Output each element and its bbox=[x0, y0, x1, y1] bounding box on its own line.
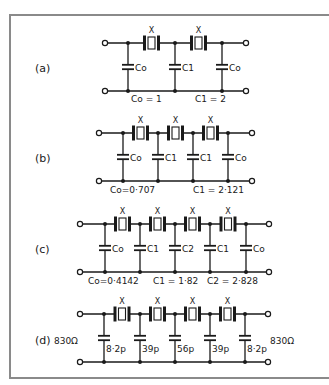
terminal-icon bbox=[77, 269, 82, 274]
crystal-icon bbox=[145, 36, 159, 51]
capacitor-label: C1 bbox=[147, 244, 159, 254]
component-value: C1 = 2·121 bbox=[193, 185, 244, 195]
crystal-label: X bbox=[155, 297, 161, 306]
capacitor-value: 8·2p bbox=[247, 344, 267, 354]
capacitor-icon bbox=[169, 224, 181, 272]
panel-label: (a) bbox=[35, 62, 50, 75]
crystal-icon bbox=[204, 126, 218, 141]
panel-label: (d) bbox=[35, 334, 51, 347]
crystal-label: X bbox=[196, 26, 202, 35]
crystal-label: X bbox=[155, 207, 161, 216]
terminal-icon bbox=[266, 221, 271, 226]
panel-label: (c) bbox=[35, 243, 50, 256]
capacitor-label: Co bbox=[253, 244, 265, 254]
component-value: Co = 1 bbox=[131, 94, 162, 104]
component-value: C1 = 1·82 bbox=[153, 276, 198, 286]
capacitor-icon bbox=[187, 133, 199, 181]
terminal-icon bbox=[249, 130, 254, 135]
component-value: C2 = 2·828 bbox=[207, 276, 258, 286]
crystal-label: X bbox=[190, 297, 196, 306]
source-impedance: 830Ω bbox=[54, 336, 78, 346]
capacitor-value: 39p bbox=[142, 344, 159, 354]
crystal-icon bbox=[116, 217, 130, 232]
capacitor-label: Co bbox=[112, 244, 124, 254]
crystal-label: X bbox=[173, 116, 179, 125]
capacitor-label: C1 bbox=[200, 153, 212, 163]
crystal-label: X bbox=[190, 207, 196, 216]
circuit-panel-c: (c)CoC1C2C1CoXXXXCo=0·4142C1 = 1·82C2 = … bbox=[35, 207, 272, 286]
capacitor-label: C1 bbox=[182, 63, 194, 73]
capacitor-label: Co bbox=[229, 63, 241, 73]
capacitor-icon bbox=[117, 133, 129, 181]
capacitor-value: 56p bbox=[177, 344, 194, 354]
capacitor-label: C2 bbox=[182, 244, 194, 254]
crystal-icon bbox=[221, 217, 235, 232]
capacitor-icon bbox=[98, 314, 110, 362]
terminal-icon bbox=[265, 311, 270, 316]
terminal-icon bbox=[243, 88, 248, 93]
capacitor-icon bbox=[134, 314, 146, 362]
capacitor-label: Co bbox=[135, 63, 147, 73]
load-impedance: 830Ω bbox=[270, 336, 294, 346]
crystal-icon bbox=[192, 36, 206, 51]
terminal-icon bbox=[77, 359, 82, 364]
capacitor-icon bbox=[169, 43, 181, 91]
terminal-icon bbox=[265, 359, 270, 364]
crystal-label: X bbox=[138, 116, 144, 125]
crystal-icon bbox=[151, 307, 165, 322]
capacitor-icon bbox=[99, 224, 111, 272]
capacitor-icon bbox=[134, 224, 146, 272]
terminal-icon bbox=[243, 40, 248, 45]
terminal-icon bbox=[249, 178, 254, 183]
crystal-label: X bbox=[149, 26, 155, 35]
circuit-panel-b: (b)CoC1C1CoXXXCo=0·707C1 = 2·121 bbox=[35, 116, 255, 195]
crystal-icon bbox=[186, 217, 200, 232]
crystal-label: X bbox=[208, 116, 214, 125]
terminal-icon bbox=[266, 269, 271, 274]
capacitor-label: Co bbox=[235, 153, 247, 163]
capacitor-icon bbox=[239, 314, 251, 362]
capacitor-value: 39p bbox=[212, 344, 229, 354]
crystal-label: X bbox=[119, 297, 125, 306]
capacitor-icon bbox=[204, 224, 216, 272]
capacitor-label: Co bbox=[130, 153, 142, 163]
crystal-label: X bbox=[225, 297, 231, 306]
capacitor-icon bbox=[204, 314, 216, 362]
capacitor-label: C1 bbox=[165, 153, 177, 163]
circuit-panel-d: (d)8·2p39p56p39p8·2pXXXX830Ω830Ω bbox=[35, 297, 294, 365]
capacitor-icon bbox=[216, 43, 228, 91]
component-value: Co=0·707 bbox=[110, 185, 155, 195]
crystal-icon bbox=[115, 307, 129, 322]
terminal-icon bbox=[77, 221, 82, 226]
crystal-icon bbox=[134, 126, 148, 141]
crystal-label: X bbox=[225, 207, 231, 216]
crystal-icon bbox=[169, 126, 183, 141]
terminal-icon bbox=[96, 130, 101, 135]
crystal-icon bbox=[221, 307, 235, 322]
capacitor-icon bbox=[222, 133, 234, 181]
capacitor-icon bbox=[152, 133, 164, 181]
circuit-panel-a: (a)CoC1CoXXCo = 1C1 = 2 bbox=[35, 26, 249, 104]
terminal-icon bbox=[102, 88, 107, 93]
crystal-label: X bbox=[120, 207, 126, 216]
terminal-icon bbox=[102, 40, 107, 45]
crystal-icon bbox=[151, 217, 165, 232]
capacitor-icon bbox=[240, 224, 252, 272]
crystal-icon bbox=[186, 307, 200, 322]
panel-label: (b) bbox=[35, 152, 51, 165]
capacitor-icon bbox=[169, 314, 181, 362]
capacitor-icon bbox=[122, 43, 134, 91]
terminal-icon bbox=[96, 178, 101, 183]
component-value: C1 = 2 bbox=[195, 94, 226, 104]
capacitor-label: C1 bbox=[217, 244, 229, 254]
terminal-icon bbox=[77, 311, 82, 316]
capacitor-value: 8·2p bbox=[106, 344, 126, 354]
component-value: Co=0·4142 bbox=[88, 276, 139, 286]
